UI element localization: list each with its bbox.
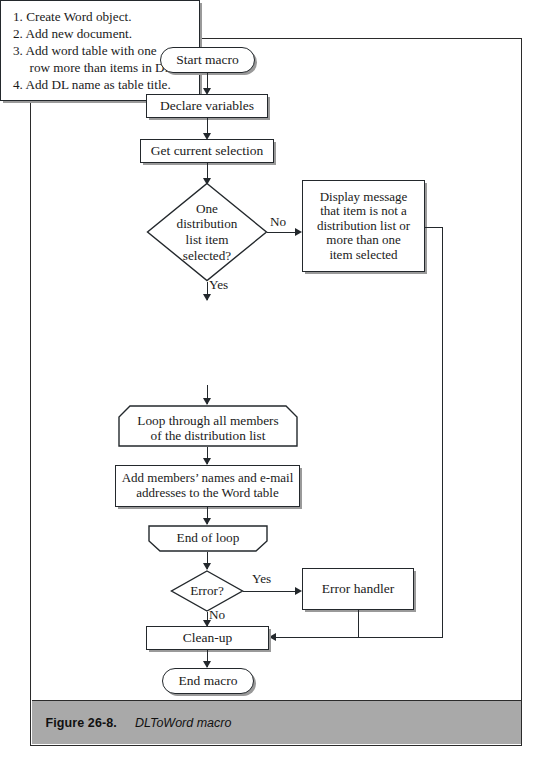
- edge-error-yes: [243, 591, 296, 593]
- node-decision-dl-selected: One distribution list item selected?: [146, 182, 268, 282]
- node-display-message-line4: more than one: [326, 233, 400, 248]
- node-loop-end-label: End of loop: [177, 530, 240, 545]
- arrow-decision-yes: [203, 294, 211, 301]
- edge-decision-no: [267, 232, 296, 234]
- node-get-current-selection: Get current selection: [140, 139, 274, 163]
- node-loop-start: Loop through all members of the distribu…: [118, 405, 298, 447]
- arrow-addmembers-to-loopend: [203, 518, 211, 525]
- edge-errorhandler-to-cleanup: [358, 610, 360, 637]
- build-step-2: 2. Add new document.: [13, 26, 199, 43]
- build-step-4: 4. Add DL name as table title.: [13, 77, 199, 94]
- edge-return-bottom: [276, 637, 442, 639]
- node-decision-dl-line4: selected?: [183, 248, 231, 264]
- edge-label-error-no: No: [209, 607, 225, 623]
- edge-return-vertical: [442, 227, 444, 638]
- node-get-current-selection-label: Get current selection: [151, 143, 263, 158]
- node-end-macro-label: End macro: [179, 673, 238, 688]
- arrow-error-yes: [295, 587, 302, 595]
- node-declare-variables: Declare variables: [146, 94, 268, 118]
- node-add-members-line2: addresses to the Word table: [136, 486, 278, 501]
- edge-return-top: [425, 227, 443, 229]
- node-decision-error: Error?: [170, 570, 244, 612]
- edge-label-error-yes: Yes: [252, 571, 271, 587]
- node-clean-up-label: Clean-up: [183, 630, 233, 645]
- node-end-macro: End macro: [162, 668, 254, 694]
- node-start-macro-label: Start macro: [176, 52, 239, 67]
- node-loop-start-line1: Loop through all members: [137, 413, 278, 428]
- flowchart-diagram: Start macro Declare variables Get curren…: [0, 0, 555, 763]
- arrow-decision-no: [295, 228, 302, 236]
- node-decision-dl-line1: One: [196, 201, 218, 217]
- node-display-message-line2: that item is not a: [320, 204, 407, 219]
- arrow-cleanup-to-end: [203, 661, 211, 668]
- edge-label-decision-yes: Yes: [209, 277, 228, 293]
- node-decision-dl-line2: distribution: [177, 216, 238, 232]
- node-clean-up: Clean-up: [146, 626, 269, 650]
- figure-caption: Figure 26-8. DLToWord macro: [32, 700, 521, 744]
- node-loop-end: End of loop: [148, 525, 268, 552]
- figure-caption-text: DLToWord macro: [135, 716, 232, 730]
- build-step-1: 1. Create Word object.: [13, 9, 199, 26]
- node-display-message-line5: item selected: [329, 248, 397, 263]
- node-add-members-line1: Add members’ names and e-mail: [122, 471, 294, 486]
- node-loop-start-line2: of the distribution list: [151, 428, 266, 443]
- arrow-loopstart-to-addmembers: [203, 458, 211, 465]
- node-error-handler-label: Error handler: [322, 581, 394, 596]
- node-add-members: Add members’ names and e-mail addresses …: [115, 465, 300, 507]
- node-decision-dl-line3: list item: [186, 232, 229, 248]
- node-decision-error-label: Error?: [190, 583, 224, 599]
- node-declare-variables-label: Declare variables: [160, 98, 254, 113]
- node-error-handler: Error handler: [302, 568, 414, 610]
- node-display-message-line3: distribution list or: [317, 219, 410, 234]
- figure-caption-label: Figure 26-8.: [46, 716, 117, 730]
- node-display-message: Display message that item is not a distr…: [302, 180, 425, 272]
- node-start-macro: Start macro: [160, 47, 255, 73]
- edge-label-decision-no: No: [270, 214, 286, 230]
- arrow-build-to-loopstart: [203, 398, 211, 405]
- arrow-return-into-cleanup: [269, 633, 276, 641]
- node-display-message-line1: Display message: [320, 190, 408, 205]
- arrow-loopend-to-error: [203, 563, 211, 570]
